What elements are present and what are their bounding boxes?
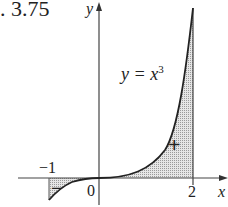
y-axis-label: y <box>86 1 93 17</box>
x-axis-label: x <box>218 184 225 200</box>
tick-label-neg-one: −1 <box>39 160 56 176</box>
positive-sign-icon: + <box>168 134 181 156</box>
tick-label-two: 2 <box>188 184 196 200</box>
x-axis-arrow-icon <box>219 175 228 181</box>
negative-sign-icon: − <box>51 178 62 198</box>
y-axis-arrow-icon <box>96 2 102 11</box>
graph-canvas <box>0 0 228 207</box>
curve-label-lhs: y = x <box>121 64 158 84</box>
curve-label-exponent: 3 <box>158 63 164 75</box>
problem-number: . 3.75 <box>0 0 50 20</box>
tick-label-zero: 0 <box>87 183 95 199</box>
curve-label: y = x3 <box>121 64 164 83</box>
